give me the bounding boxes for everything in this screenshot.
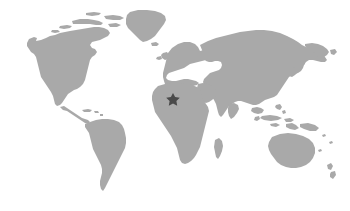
world-map-svg (0, 0, 350, 211)
world-map-figure: World map with location marker (0, 0, 350, 211)
map-canvas: World map with location marker (0, 0, 350, 211)
